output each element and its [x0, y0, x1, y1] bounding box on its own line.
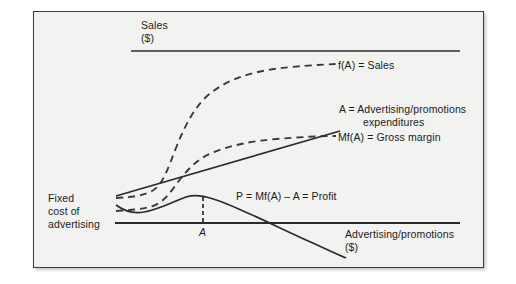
optimum-point-label: A [199, 226, 206, 239]
figure-container: Sales($) Fixedcost ofadvertising f(A) = … [0, 0, 516, 284]
sales-curve [116, 64, 336, 198]
x-axis-title-line2: ($) [345, 241, 358, 254]
y-axis-title-line2: ($) [141, 32, 154, 44]
expenditures-label-line1: A = Advertising/promotions [339, 103, 466, 116]
fixed-cost-note: Fixedcost ofadvertising [48, 192, 100, 231]
fixed-cost-line2: cost of [48, 205, 80, 217]
expenditures-label-line2: expenditures [363, 116, 424, 129]
fixed-cost-line1: Fixed [48, 192, 74, 204]
fixed-cost-line3: advertising [48, 218, 100, 230]
y-axis-title-line1: Sales [141, 19, 168, 31]
profit-label: P = Mf(A) – A = Profit [236, 190, 337, 203]
sales-curve-label: f(A) = Sales [338, 59, 394, 72]
x-axis-title-line1: Advertising/promotions [345, 228, 454, 241]
profit-curve [116, 195, 346, 258]
expenditures-line [116, 131, 340, 196]
gross-margin-label: Mf(A) = Gross margin [338, 131, 441, 144]
y-axis-title: Sales($) [141, 19, 168, 45]
